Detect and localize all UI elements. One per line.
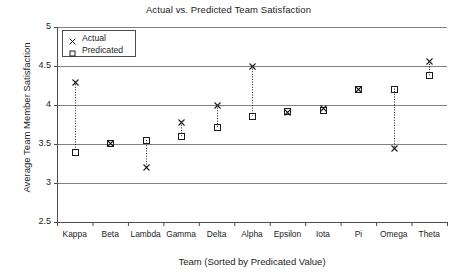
data-point-actual xyxy=(144,165,150,171)
data-point-actual xyxy=(356,87,362,93)
legend-item-actual: Actual xyxy=(67,32,106,44)
legend-item-predicated: Predicated xyxy=(67,44,123,56)
y-axis-tick-label: 4.5 xyxy=(21,60,51,70)
data-point-predicated xyxy=(250,114,256,120)
x-axis-tick-label: Theta xyxy=(412,229,447,239)
data-point-predicated xyxy=(179,134,185,140)
data-point-predicated xyxy=(215,125,221,131)
x-axis-tick-label: Epsilon xyxy=(270,229,305,239)
x-axis-tick-label: Omega xyxy=(376,229,411,239)
data-point-predicated xyxy=(73,150,79,156)
x-axis-tick-label: Beta xyxy=(92,229,127,239)
y-axis-tick-label: 5 xyxy=(21,21,51,31)
chart-container: Actual vs. Predicted Team Satisfaction A… xyxy=(0,0,457,277)
y-axis-tick-label: 3 xyxy=(21,177,51,187)
x-axis-tick-label: Pi xyxy=(341,229,376,239)
y-axis-tick-label: 3.5 xyxy=(21,138,51,148)
x-axis-tick-label: Alpha xyxy=(234,229,269,239)
data-point-actual xyxy=(179,120,185,126)
x-axis-tick-label: Gamma xyxy=(163,229,198,239)
chart-legend: Actual Predicated xyxy=(62,30,136,57)
data-point-actual xyxy=(108,141,114,147)
x-axis-tick-label: Kappa xyxy=(57,229,92,239)
data-point-actual xyxy=(321,106,327,112)
x-marker-icon xyxy=(67,33,78,44)
data-point-predicated xyxy=(427,73,433,79)
legend-label-actual: Actual xyxy=(82,33,106,43)
legend-label-predicated: Predicated xyxy=(82,45,123,55)
x-axis-tick-label: Iota xyxy=(305,229,340,239)
square-marker-icon xyxy=(67,45,78,56)
x-axis-tick-label: Lambda xyxy=(128,229,163,239)
y-axis-tick-label: 4 xyxy=(21,99,51,109)
x-axis-tick-label: Delta xyxy=(199,229,234,239)
y-axis-tick-label: 2.5 xyxy=(21,216,51,226)
data-point-actual xyxy=(427,59,433,65)
data-point-predicated xyxy=(285,109,291,115)
